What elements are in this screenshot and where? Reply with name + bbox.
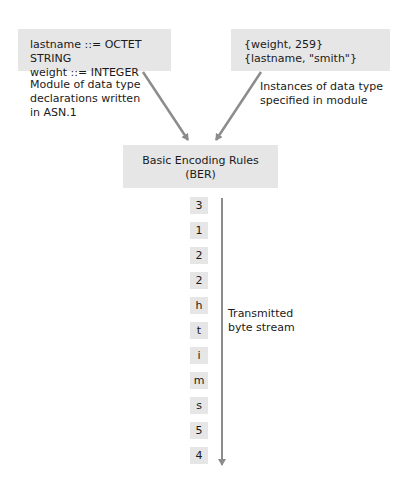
byte-box: t [190,322,208,339]
module-line-1: lastname ::= OCTET STRING [30,38,171,66]
byte-box: h [190,297,208,314]
byte-box: 1 [190,222,208,239]
byte-stream-caption: Transmitted byte stream [228,307,295,335]
byte-box: m [190,372,208,389]
module-box: lastname ::= OCTET STRING weight ::= INT… [18,29,171,71]
ber-line-2: (BER) [123,168,278,182]
byte-box: 4 [190,447,208,464]
module-caption: Module of data type declarations written… [30,78,140,120]
instances-to-ber-arrow [216,72,261,140]
byte-box: 2 [190,272,208,289]
byte-box: 3 [190,197,208,214]
instances-line-2: {lastname, "smith"} [244,52,390,66]
byte-box: 5 [190,422,208,439]
instances-caption: Instances of data type specified in modu… [260,80,383,108]
instances-line-1: {weight, 259} [244,38,390,52]
byte-box: s [190,397,208,414]
ber-line-1: Basic Encoding Rules [123,154,278,168]
ber-box: Basic Encoding Rules (BER) [123,145,278,188]
byte-box: i [190,347,208,364]
instances-box: {weight, 259} {lastname, "smith"} [231,29,390,71]
byte-box: 2 [190,247,208,264]
module-to-ber-arrow [143,72,188,140]
